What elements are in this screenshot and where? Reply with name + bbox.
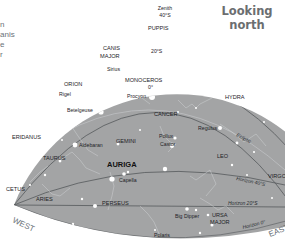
star: [185, 207, 189, 211]
star: [49, 127, 51, 129]
constellation-hydra: HYDRA: [225, 94, 245, 100]
constellation-gemini: GEMINI: [116, 138, 136, 144]
constellation-cetus: CETUS: [6, 186, 25, 192]
star-label-sirius: Sirius: [107, 66, 120, 72]
star: [231, 164, 233, 166]
star: [29, 184, 31, 186]
star: [122, 172, 126, 176]
constellation-perseus: PERSEUS: [102, 200, 129, 206]
star-label-polaris: Polaris: [154, 232, 170, 238]
constellation-orion: ORION: [64, 81, 82, 87]
star: [216, 83, 220, 87]
star: [44, 217, 46, 219]
star: [117, 59, 123, 65]
constellation-puppis: PUPPIS: [148, 25, 169, 31]
star: [195, 209, 197, 211]
star-label-aldebaran: Aldebaran: [79, 142, 103, 148]
star: [127, 171, 129, 173]
star: [145, 32, 147, 34]
star: [163, 167, 167, 171]
star: [139, 129, 141, 131]
star: [173, 136, 176, 139]
star-label-regulus: Regulus: [198, 125, 217, 131]
star-label-castor: Castor: [160, 141, 176, 147]
constellation-cancer: CANCER: [154, 111, 178, 117]
constellation-ursa-major-line2: MAJOR: [210, 219, 230, 225]
star: [44, 174, 46, 176]
constellation-leo: LEO: [217, 153, 229, 159]
star: [109, 80, 111, 82]
star: [71, 92, 75, 96]
constellation-eridanus: ERIDANUS: [12, 134, 41, 140]
star-label-big-dipper: Big Dipper: [175, 213, 199, 219]
star: [81, 198, 83, 200]
sky-map: Zenith 40°S 20°S 0° PUPPIS CANIS MAJOR M…: [0, 0, 285, 245]
star-label-pollux: Pollux: [159, 133, 174, 139]
star: [109, 176, 114, 181]
star: [271, 197, 273, 199]
star: [61, 139, 63, 141]
star: [126, 45, 129, 48]
star: [236, 142, 239, 145]
star: [93, 204, 97, 208]
star: [250, 100, 252, 102]
star: [195, 107, 197, 109]
constellation-monoceros: MONOCEROS: [125, 77, 163, 83]
star: [246, 174, 248, 176]
zenith-label: Zenith: [158, 5, 173, 11]
star: [73, 143, 78, 148]
star: [154, 229, 156, 231]
star: [84, 59, 86, 61]
constellation-auriga: AURIGA: [107, 160, 137, 169]
constellation-canis-major-line2: MAJOR: [100, 53, 120, 59]
star: [263, 121, 265, 123]
dec-0-label: 0°: [148, 84, 153, 90]
star: [199, 232, 201, 234]
star: [89, 100, 92, 103]
star: [86, 96, 90, 100]
star: [170, 50, 172, 52]
dec-20s-label: 20°S: [151, 48, 163, 54]
constellation-taurus: TAURUS: [43, 155, 66, 161]
star: [98, 109, 103, 114]
star-label-procyon: Procyon: [127, 93, 146, 99]
zenith-value: 40°S: [159, 12, 171, 18]
star: [207, 214, 210, 217]
star-label-capella: Capella: [119, 177, 137, 183]
star-label-betelgeuse: Betelgeuse: [67, 107, 93, 113]
constellation-virgo: VIRGO: [268, 173, 285, 179]
star: [105, 73, 107, 75]
direction-west: WEST: [11, 216, 36, 234]
star: [133, 39, 136, 42]
horizon-20-label: Horizon 20°S: [228, 200, 258, 206]
constellation-aries: ARIES: [36, 196, 53, 202]
star-label-rigel: Rigel: [59, 91, 71, 97]
star: [95, 84, 98, 87]
star: [156, 39, 159, 42]
constellation-canis-major-line1: CANIS: [103, 45, 120, 51]
star: [149, 94, 155, 100]
constellation-ursa-major-line1: URSA: [212, 212, 228, 218]
star: [72, 223, 74, 225]
star: [218, 126, 222, 130]
star: [253, 151, 255, 153]
star: [177, 39, 179, 41]
sky-dome: [14, 94, 285, 238]
